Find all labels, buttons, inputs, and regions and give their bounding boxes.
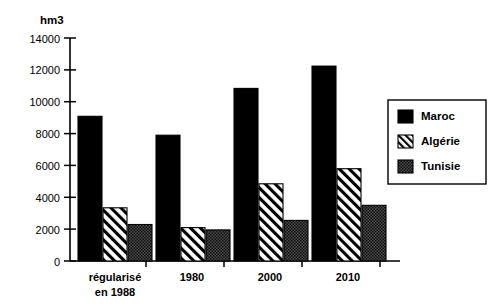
y-tick-label-4000: 4000 [36, 192, 60, 204]
bar-tunisie-1980 [206, 230, 230, 261]
y-tick-label-2000: 2000 [36, 224, 60, 236]
bar-tunisie-regularise-1988 [128, 225, 152, 262]
bar-tunisie-2010 [362, 205, 386, 261]
cat-label-regularise-line1: régularisé [89, 271, 142, 283]
diagonal-hatch-swatch-icon [398, 135, 413, 148]
y-tick-label-6000: 6000 [36, 160, 60, 172]
bar-maroc-regularise-1988 [78, 116, 102, 261]
chart-legend: Maroc Algérie Tunisie [388, 100, 486, 184]
bar-maroc-1980 [156, 135, 180, 261]
legend-label-algerie: Algérie [421, 135, 460, 147]
bar-chart-figure: hm3 14000 12000 10000 8000 6000 4000 [0, 0, 499, 304]
cat-label-regularise-line2: en 1988 [95, 286, 135, 298]
y-axis-unit-label: hm3 [40, 14, 64, 26]
cat-label-1980: 1980 [180, 271, 204, 283]
bar-maroc-2000 [234, 88, 258, 261]
bar-algerie-regularise-1988 [103, 208, 127, 261]
bar-algerie-2000 [259, 184, 283, 261]
legend-label-maroc: Maroc [421, 110, 455, 122]
cat-label-2000: 2000 [258, 271, 282, 283]
bar-algerie-1980 [181, 228, 205, 261]
bar-algerie-2010 [337, 169, 361, 261]
y-tick-label-14000: 14000 [29, 33, 60, 45]
y-tick-label-8000: 8000 [36, 128, 60, 140]
bar-maroc-2010 [312, 66, 336, 261]
legend-item-maroc: Maroc [398, 110, 455, 123]
stipple-gray-swatch-icon [398, 160, 413, 173]
legend-item-algerie: Algérie [398, 135, 460, 148]
chart-canvas: hm3 14000 12000 10000 8000 6000 4000 [0, 0, 499, 304]
cat-label-2010: 2010 [336, 271, 360, 283]
y-tick-label-12000: 12000 [29, 64, 60, 76]
y-tick-label-0: 0 [54, 256, 60, 268]
y-axis-unit-label-group: hm3 [40, 14, 64, 26]
bar-tunisie-2000 [284, 220, 308, 261]
y-tick-label-10000: 10000 [29, 96, 60, 108]
legend-label-tunisie: Tunisie [421, 160, 460, 172]
legend-item-tunisie: Tunisie [398, 160, 460, 173]
solid-black-swatch-icon [398, 110, 413, 123]
